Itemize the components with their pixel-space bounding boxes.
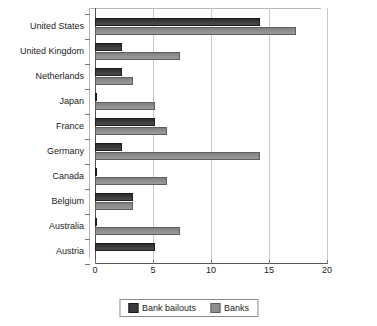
y-axis-label-united-states: United States <box>0 14 89 39</box>
bar-japan-banks <box>95 102 155 110</box>
y-tick-mark-5 <box>85 139 90 140</box>
y-axis-label-germany: Germany <box>0 139 89 164</box>
y-tick-mark-3 <box>85 89 90 90</box>
bar-row-germany <box>95 139 327 164</box>
y-tick-mark-10 <box>85 264 90 265</box>
bar-canada-banks <box>95 177 167 185</box>
bar-united-states-banks <box>95 27 296 35</box>
gridline-20 <box>327 8 328 264</box>
x-tick-mark-20 <box>327 260 328 264</box>
bar-netherlands-banks <box>95 77 133 85</box>
bar-row-france <box>95 114 327 139</box>
bar-germany-bank-bailouts <box>95 143 122 151</box>
x-tick-label-5: 5 <box>150 266 155 275</box>
y-tick-mark-9 <box>85 239 90 240</box>
legend-swatch-dark-icon <box>128 303 138 313</box>
y-axis-label-japan: Japan <box>0 89 89 114</box>
bar-france-bank-bailouts <box>95 118 155 126</box>
legend-swatch-light-icon <box>210 303 220 313</box>
y-tick-mark-7 <box>85 189 90 190</box>
plot-area <box>95 14 327 264</box>
bar-belgium-banks <box>95 202 133 210</box>
bar-belgium-bank-bailouts <box>95 193 133 201</box>
x-tick-mark-15 <box>269 260 270 264</box>
bar-united-kingdom-banks <box>95 52 180 60</box>
legend-item-banks: Banks <box>210 303 249 313</box>
x-tick-mark-0 <box>95 260 96 264</box>
y-tick-mark-6 <box>85 164 90 165</box>
y-tick-mark-0 <box>85 14 90 15</box>
y-axis-label-canada: Canada <box>0 164 89 189</box>
chart-legend: Bank bailouts Banks <box>119 299 258 317</box>
x-tick-mark-5 <box>153 260 154 264</box>
x-tick-label-0: 0 <box>92 266 97 275</box>
bar-row-japan <box>95 89 327 114</box>
bar-australia-bank-bailouts <box>95 218 97 226</box>
x-tick-label-10: 10 <box>206 266 216 275</box>
bar-chart: United States United Kingdom Netherlands… <box>0 0 377 326</box>
y-axis-label-austria: Austria <box>0 239 89 264</box>
bar-australia-banks <box>95 227 180 235</box>
y-tick-mark-8 <box>85 214 90 215</box>
y-tick-mark-2 <box>85 64 90 65</box>
bar-rows <box>95 14 327 264</box>
y-axis-label-united-kingdom: United Kingdom <box>0 39 89 64</box>
bar-row-united-kingdom <box>95 39 327 64</box>
plot-wrapper: United States United Kingdom Netherlands… <box>0 0 377 290</box>
y-tick-mark-1 <box>85 39 90 40</box>
legend-label-banks: Banks <box>224 304 249 313</box>
bar-united-kingdom-bank-bailouts <box>95 43 122 51</box>
bar-japan-bank-bailouts <box>95 93 97 101</box>
bar-canada-bank-bailouts <box>95 168 97 176</box>
y-tick-mark-4 <box>85 114 90 115</box>
y-axis-label-france: France <box>0 114 89 139</box>
bar-germany-banks <box>95 152 260 160</box>
bar-row-belgium <box>95 189 327 214</box>
x-axis-tick-labels: 05101520 <box>95 266 327 280</box>
legend-item-bank-bailouts: Bank bailouts <box>128 303 196 313</box>
y-axis-label-australia: Australia <box>0 214 89 239</box>
bar-austria-bank-bailouts <box>95 243 155 251</box>
y-axis-category-labels: United States United Kingdom Netherlands… <box>0 14 89 264</box>
x-tick-label-20: 20 <box>322 266 332 275</box>
bar-united-states-bank-bailouts <box>95 18 260 26</box>
y-axis-label-netherlands: Netherlands <box>0 64 89 89</box>
bar-row-canada <box>95 164 327 189</box>
bar-netherlands-bank-bailouts <box>95 68 122 76</box>
bar-row-united-states <box>95 14 327 39</box>
y-axis-label-belgium: Belgium <box>0 189 89 214</box>
bar-row-australia <box>95 214 327 239</box>
x-tick-mark-10 <box>211 260 212 264</box>
bar-france-banks <box>95 127 167 135</box>
x-tick-label-15: 15 <box>264 266 274 275</box>
legend-label-bank-bailouts: Bank bailouts <box>142 304 196 313</box>
bar-row-netherlands <box>95 64 327 89</box>
